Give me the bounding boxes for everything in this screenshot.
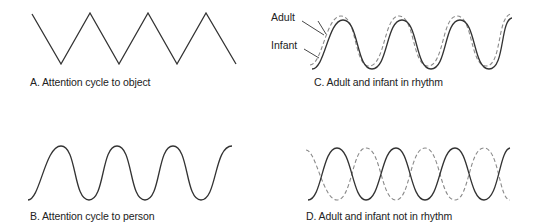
- panel-c-infant-solid-line: [312, 18, 512, 69]
- infant-label: Infant: [271, 39, 297, 51]
- panel-c-caption: C. Adult and infant in rhythm: [314, 76, 443, 88]
- adult-callout-leader-line: [302, 21, 324, 35]
- panel-b-caption: B. Attention cycle to person: [30, 210, 154, 222]
- panel-a-zigzag-line: [32, 13, 236, 64]
- panel-b-sine-line: [28, 146, 232, 200]
- adult-label: Adult: [271, 11, 295, 23]
- panel-d-infant-solid-line: [308, 148, 510, 200]
- panel-c-adult-dashed-line: [310, 14, 511, 66]
- panel-d-adult-dashed-line: [306, 148, 510, 200]
- attention-cycle-diagram: [0, 0, 537, 223]
- panel-a-caption: A. Attention cycle to object: [30, 76, 150, 88]
- panel-d-caption: D. Adult and infant not in rhythm: [306, 210, 452, 222]
- infant-callout-leader-line: [304, 49, 319, 58]
